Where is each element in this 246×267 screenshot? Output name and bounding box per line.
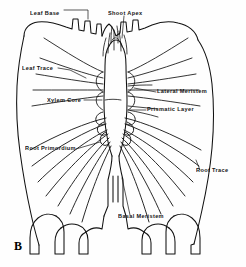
root-lobe-left (55, 216, 64, 254)
leaf-trace-right-1 (128, 38, 188, 72)
leader-leaf-base (64, 10, 88, 19)
basal-meristem-core (113, 176, 118, 202)
leader-root-primordium (76, 142, 100, 149)
root-trace-left-4 (46, 134, 108, 196)
label-prismatic-layer: Prismatic Layer (147, 107, 194, 113)
leaf-trace-left-loop-2 (96, 92, 103, 110)
root-lobe-far-left (30, 214, 56, 254)
botanical-figure-panel: Leaf Base Shoot Apex Leaf Trace Xylem Co… (0, 0, 246, 267)
label-shoot-apex: Shoot Apex (108, 11, 142, 17)
label-root-primordium: Root Primordium (25, 146, 76, 152)
lateral-meristem-mark (128, 85, 152, 86)
leaf-primordium-2 (108, 33, 110, 53)
root-lobe-right (166, 216, 175, 254)
leaf-trace-right-loop-2 (128, 92, 135, 110)
root-trace-right-5 (122, 138, 173, 206)
leaf-trace-right-loop-1 (128, 72, 135, 92)
leaf-trace-right-5 (128, 96, 200, 106)
label-root-trace: Root Trace (196, 168, 228, 174)
root-lobe-mid-right (142, 224, 169, 254)
leaf-primordium-6 (111, 27, 112, 43)
label-leaf-trace: Leaf Trace (22, 66, 53, 72)
root-lobe-center-left (86, 216, 104, 232)
basal-meristem-pocket (104, 156, 126, 216)
outline-right-body (194, 40, 214, 244)
leader-shoot-apex (122, 16, 124, 38)
root-trace-right-4 (123, 134, 185, 196)
outline-left-body (24, 19, 102, 36)
root-lobe-mid-left (61, 224, 88, 254)
root-trace-right-1 (125, 118, 201, 150)
label-leaf-base: Leaf Base (30, 11, 60, 17)
figure-panel-letter: B (14, 240, 22, 252)
label-xylem-core: Xylem Core (47, 98, 81, 104)
xylem-core-mark (105, 99, 121, 100)
label-lateral-meristem: Lateral Meristem (157, 89, 207, 95)
leaf-trace-left-loop-1 (96, 72, 103, 92)
label-basal-meristem: Basal Meristem (118, 214, 164, 220)
root-trace-left-3 (38, 130, 107, 182)
root-trace-right-3 (124, 130, 193, 182)
outline-shoot-apex-notches (102, 20, 198, 40)
stem-longitudinal-section-drawing (0, 0, 246, 267)
